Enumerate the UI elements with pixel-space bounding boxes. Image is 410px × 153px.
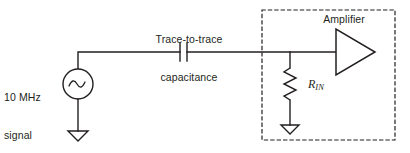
ground-symbol-source [68, 131, 88, 141]
signal-source-label-line1: 10 MHz [4, 91, 41, 104]
input-resistance-subscript: IN [315, 82, 324, 92]
capacitance-label-line1: Trace-to-trace [126, 33, 252, 46]
signal-source-label: 10 MHz signal source [4, 66, 41, 153]
circuit-diagram: 10 MHz signal source Trace-to-trace capa… [0, 0, 410, 153]
capacitance-label: Trace-to-trace capacitance [126, 8, 252, 108]
input-resistance-label: RIN [308, 77, 324, 92]
amplifier-enclosure-boundary [262, 10, 395, 140]
amplifier-label: Amplifier [296, 13, 392, 26]
capacitance-label-line2: capacitance [126, 71, 252, 84]
resistor-symbol [284, 68, 296, 100]
ground-symbol-rin [281, 125, 299, 134]
signal-source-label-line2: signal [4, 129, 41, 142]
signal-source-symbol [63, 69, 93, 99]
amplifier-triangle-symbol [336, 29, 375, 75]
